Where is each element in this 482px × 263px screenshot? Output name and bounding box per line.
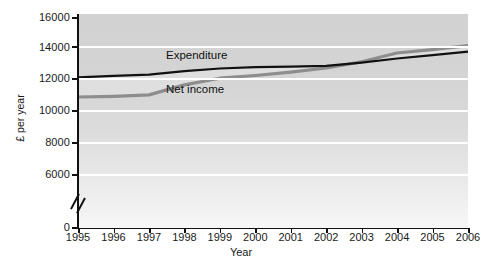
x-axis-line <box>77 228 468 230</box>
x-tick-label: 2001 <box>278 231 302 243</box>
y-axis-tick <box>72 17 77 19</box>
y-tick-label: 12000 <box>39 73 70 84</box>
chart-figure: 16000 14000 12000 10000 8000 6000 0 £ pe… <box>0 0 482 263</box>
x-tick-label: 2000 <box>243 231 267 243</box>
series-label-expenditure: Expenditure <box>166 49 227 61</box>
gridline <box>78 46 468 48</box>
y-axis-break-icon <box>69 191 87 217</box>
gridline <box>78 78 468 80</box>
y-axis-tick <box>72 142 77 144</box>
x-tick-label: 1998 <box>172 231 196 243</box>
y-tick-label: 16000 <box>39 12 70 23</box>
x-tick-label: 2003 <box>349 231 373 243</box>
x-tick-label: 1999 <box>208 231 232 243</box>
y-axis-tick-labels: 16000 14000 12000 10000 8000 6000 0 <box>0 0 70 263</box>
x-axis-title: Year <box>0 246 482 258</box>
y-tick-label: 14000 <box>39 42 70 53</box>
x-tick-label: 2002 <box>314 231 338 243</box>
y-tick-label: 10000 <box>39 105 70 116</box>
gridline <box>78 110 468 112</box>
gridline <box>78 142 468 144</box>
x-tick-label: 1995 <box>66 231 90 243</box>
y-axis-title: £ per year <box>14 73 26 163</box>
y-tick-label: 8000 <box>45 137 70 148</box>
x-tick-label: 2006 <box>456 231 480 243</box>
x-tick-label: 2004 <box>385 231 409 243</box>
gridline <box>78 174 468 176</box>
x-tick-label: 1997 <box>137 231 161 243</box>
y-axis-tick <box>72 78 77 80</box>
x-tick-label: 2005 <box>420 231 444 243</box>
plot-area <box>78 14 468 228</box>
y-axis-tick <box>72 227 77 229</box>
y-tick-label: 6000 <box>45 169 70 180</box>
series-label-net-income: Net income <box>166 83 224 95</box>
x-tick-label: 1996 <box>101 231 125 243</box>
y-axis-tick <box>72 174 77 176</box>
y-axis-tick <box>72 110 77 112</box>
y-axis-tick <box>72 46 77 48</box>
